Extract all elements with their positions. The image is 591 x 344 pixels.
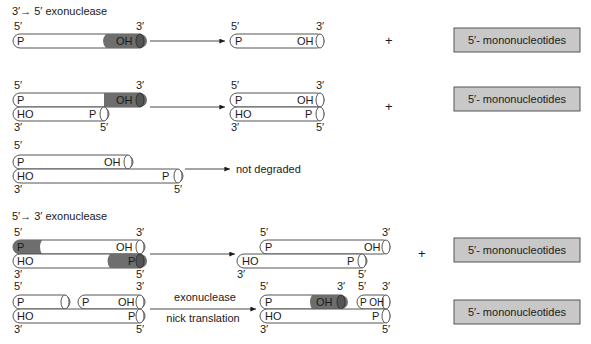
p-label: P [17, 35, 24, 47]
p-label: P [162, 170, 169, 182]
plus-sign: + [385, 99, 393, 114]
five-prime-label: 5′ [174, 183, 182, 195]
three-prime-label: 3′ [316, 20, 324, 32]
row-5to3-duplex: 5′ 3′ P OH HO P 3′ 5′ 5′ 3′ P OH HO P 3′… [13, 226, 580, 280]
exonuclease-label: exonuclease [174, 291, 236, 303]
oh-label: OH [297, 35, 314, 47]
strand-end-cap [136, 34, 144, 48]
row-not-degraded: 5′ P OH HO P 3′ 5′ not degraded [13, 139, 301, 195]
three-prime-label: 3′ [14, 121, 22, 133]
bottom-strand [13, 169, 183, 183]
five-prime-label: 5′ [231, 20, 239, 32]
p-label: P [17, 241, 24, 253]
five-prime-label: 5′ [14, 20, 22, 32]
five-prime-label: 5′ [260, 280, 268, 292]
three-prime-label: 3′ [14, 183, 22, 195]
three-prime-label: 3′ [136, 280, 144, 292]
product-label: 5′- mononucleotides [468, 306, 567, 318]
ho-label: HO [242, 255, 259, 267]
strand-end-cap [337, 295, 345, 309]
oh-label: OH [116, 94, 133, 106]
p-label: P [372, 310, 379, 322]
strand-end-cap [136, 240, 144, 254]
strand-end-cap [136, 254, 144, 268]
p-label: P [265, 241, 272, 253]
five-prime-label: 5′ [14, 139, 22, 151]
plus-sign: + [418, 246, 426, 261]
p-label: P [17, 296, 24, 308]
three-prime-label: 3′ [237, 268, 245, 280]
three-prime-label: 3′ [316, 79, 324, 91]
five-prime-label: 5′ [358, 280, 366, 292]
strand-end-cap [358, 254, 366, 268]
five-prime-label: 5′ [14, 79, 22, 91]
p-label: P [265, 296, 272, 308]
p-label: P [305, 108, 312, 120]
strand-end-cap [61, 295, 69, 309]
p-label: P [235, 94, 242, 106]
strand-end-cap [382, 309, 390, 323]
five-prime-label: 5′ [316, 121, 324, 133]
strand-end-cap [174, 169, 182, 183]
strand-end-cap [136, 93, 144, 107]
strand-end-cap [136, 295, 144, 309]
p-label: P [17, 156, 24, 168]
five-prime-label: 5′ [231, 79, 239, 91]
product-label: 5′- mononucleotides [468, 34, 567, 46]
strand-end-cap [316, 93, 324, 107]
three-prime-label: 3′ [14, 268, 22, 280]
p-label: P [17, 94, 24, 106]
oh-label: OH [297, 94, 314, 106]
five-prime-label: 5′ [358, 268, 366, 280]
p-label: P [82, 296, 89, 308]
five-prime-label: 5′ [14, 280, 22, 292]
five-prime-label: 5′ [260, 226, 268, 238]
p-label: P [347, 255, 354, 267]
oh-label: OH [104, 156, 121, 168]
row-recessed-duplex: 5′ 3′ P OH HO P 3′ 5′ 5′ 3′ P OH HO P 3′… [13, 79, 580, 133]
p-label: P [89, 108, 96, 120]
strand-end-cap [124, 155, 132, 169]
row-nick-translation: 5′ 3′ P P OH HO P 3′ 5′ exonuclease nick… [13, 280, 580, 335]
not-degraded-label: not degraded [236, 163, 301, 175]
oh-label: OH [364, 241, 381, 253]
p-label: P [235, 35, 242, 47]
product-label: 5′- mononucleotides [468, 93, 567, 105]
product-label: 5′- mononucleotides [468, 244, 567, 256]
oh-label: OH [116, 35, 133, 47]
strand-end-cap [382, 240, 390, 254]
oh-label: OH [316, 296, 333, 308]
three-prime-label: 3′ [260, 323, 268, 335]
ho-label: HO [17, 108, 34, 120]
oh-label: OH [118, 296, 135, 308]
strand-end-cap [316, 34, 324, 48]
three-prime-label: 3′ [136, 20, 144, 32]
oh-label: OH [116, 241, 133, 253]
ho-label: HO [17, 255, 34, 267]
plus-sign: + [385, 33, 393, 48]
p-label: P [128, 310, 135, 322]
three-prime-label: 3′ [136, 79, 144, 91]
strand-end-cap [136, 309, 144, 323]
three-prime-label: 3′ [136, 226, 144, 238]
row-single-strand: 5′ 3′ P OH 5′ 3′ P OH + 5′- mononucleoti… [13, 20, 580, 52]
ho-label: HO [235, 108, 252, 120]
ho-label: HO [17, 310, 34, 322]
three-prime-label: 3′ [231, 121, 239, 133]
strand-end-cap [316, 107, 324, 121]
three-prime-label: 3′ [14, 323, 22, 335]
strand-end-cap [100, 107, 108, 121]
exonuclease-diagram: 3′→ 5′ exonuclease 5′ 3′ P OH 5′ 3′ P OH… [0, 0, 591, 344]
three-prime-label: 3′ [382, 280, 390, 292]
poh-label: P OH [360, 297, 384, 308]
three-prime-label: 3′ [337, 280, 345, 292]
five-prime-label: 5′ [100, 121, 108, 133]
five-prime-label: 5′ [382, 323, 390, 335]
three-prime-label: 3′ [382, 226, 390, 238]
five-prime-label: 5′ [14, 226, 22, 238]
nick-translation-label: nick translation [166, 312, 239, 324]
section-title-5to3: 5′→ 3′ exonuclease [12, 210, 107, 222]
five-prime-label: 5′ [136, 323, 144, 335]
five-prime-label: 5′ [136, 268, 144, 280]
p-label: P [128, 255, 135, 267]
